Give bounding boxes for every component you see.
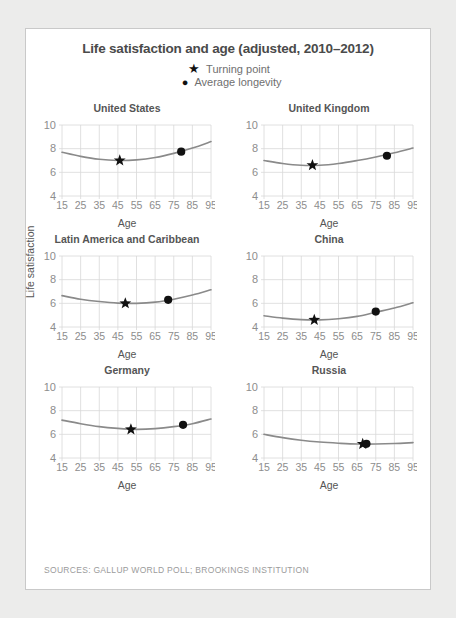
panel-china: China 46810152535455565758595 Age — [228, 229, 430, 360]
panel-row-1: United States 46810152535455565758595 Ag… — [26, 98, 430, 229]
legend-item-average-longevity: ● Average longevity — [174, 76, 281, 88]
panel-title: United States — [26, 102, 228, 116]
svg-text:25: 25 — [276, 199, 288, 211]
x-axis-label: Age — [228, 479, 430, 491]
svg-text:55: 55 — [332, 330, 344, 342]
svg-text:55: 55 — [130, 199, 142, 211]
svg-text:55: 55 — [130, 461, 142, 473]
svg-text:6: 6 — [49, 428, 55, 440]
legend-label-average-longevity: Average longevity — [194, 76, 281, 88]
legend-label-turning-point: Turning point — [206, 63, 270, 75]
svg-text:35: 35 — [295, 330, 307, 342]
legend-item-turning-point: ★ Turning point — [186, 62, 270, 75]
circle-icon: ● — [174, 77, 188, 88]
svg-text:8: 8 — [49, 142, 55, 154]
panel-united-states: United States 46810152535455565758595 Ag… — [26, 98, 228, 229]
svg-text:55: 55 — [332, 199, 344, 211]
svg-text:8: 8 — [49, 404, 55, 416]
svg-text:45: 45 — [112, 199, 124, 211]
panel-united-kingdom: United Kingdom 46810152535455565758595 A… — [228, 98, 430, 229]
plot-area: 46810152535455565758595 — [40, 251, 215, 347]
svg-text:75: 75 — [167, 199, 179, 211]
svg-text:35: 35 — [93, 199, 105, 211]
svg-text:15: 15 — [56, 199, 68, 211]
chart-card: Life satisfaction and age (adjusted, 201… — [25, 28, 431, 590]
svg-text:8: 8 — [251, 273, 257, 285]
svg-text:75: 75 — [167, 330, 179, 342]
svg-text:85: 85 — [186, 461, 198, 473]
svg-text:25: 25 — [74, 461, 86, 473]
svg-text:75: 75 — [369, 330, 381, 342]
svg-text:35: 35 — [295, 199, 307, 211]
svg-text:15: 15 — [258, 199, 270, 211]
svg-text:4: 4 — [49, 190, 55, 202]
svg-text:35: 35 — [93, 461, 105, 473]
svg-text:25: 25 — [276, 330, 288, 342]
svg-text:75: 75 — [167, 461, 179, 473]
svg-text:8: 8 — [49, 273, 55, 285]
star-icon: ★ — [186, 62, 200, 75]
svg-text:45: 45 — [112, 330, 124, 342]
svg-text:15: 15 — [258, 461, 270, 473]
svg-text:65: 65 — [149, 461, 161, 473]
x-axis-label: Age — [228, 348, 430, 360]
svg-text:95: 95 — [205, 199, 215, 211]
svg-text:8: 8 — [251, 404, 257, 416]
svg-text:15: 15 — [56, 461, 68, 473]
svg-text:65: 65 — [149, 199, 161, 211]
svg-text:95: 95 — [407, 199, 417, 211]
panel-row-2: Latin America and Caribbean 468101525354… — [26, 229, 430, 360]
svg-text:10: 10 — [245, 120, 257, 131]
svg-text:55: 55 — [332, 461, 344, 473]
panel-latin-america-and-caribbean: Latin America and Caribbean 468101525354… — [26, 229, 228, 360]
svg-text:4: 4 — [49, 452, 55, 464]
plot-area: 46810152535455565758595 — [242, 251, 417, 347]
plot-area: 46810152535455565758595 — [40, 382, 215, 478]
panel-russia: Russia 46810152535455565758595 Age — [228, 360, 430, 491]
panel-row-3: Germany 46810152535455565758595 Age Russ… — [26, 360, 430, 491]
plot-area: 46810152535455565758595 — [242, 382, 417, 478]
x-axis-label: Age — [26, 217, 228, 229]
svg-text:65: 65 — [351, 330, 363, 342]
svg-text:8: 8 — [251, 142, 257, 154]
svg-text:25: 25 — [74, 199, 86, 211]
panel-grid: Life satisfaction United States 46810152… — [26, 98, 430, 491]
svg-text:6: 6 — [251, 428, 257, 440]
plot-area: 46810152535455565758595 — [40, 120, 215, 216]
svg-text:4: 4 — [251, 321, 257, 333]
x-axis-label: Age — [26, 479, 228, 491]
svg-text:75: 75 — [369, 461, 381, 473]
panel-title: United Kingdom — [228, 102, 430, 116]
x-axis-label: Age — [26, 348, 228, 360]
svg-text:65: 65 — [149, 330, 161, 342]
x-axis-label: Age — [228, 217, 430, 229]
svg-text:45: 45 — [314, 330, 326, 342]
svg-text:95: 95 — [407, 330, 417, 342]
panel-title: China — [228, 233, 430, 247]
svg-text:10: 10 — [43, 120, 55, 131]
svg-text:10: 10 — [245, 382, 257, 393]
svg-text:85: 85 — [186, 199, 198, 211]
y-axis-label: Life satisfaction — [24, 226, 36, 298]
svg-text:75: 75 — [369, 199, 381, 211]
legend: ★ Turning point ● Average longevity — [26, 62, 430, 88]
svg-text:45: 45 — [112, 461, 124, 473]
svg-text:4: 4 — [251, 190, 257, 202]
page-title: Life satisfaction and age (adjusted, 201… — [26, 41, 430, 56]
svg-text:25: 25 — [74, 330, 86, 342]
svg-text:6: 6 — [251, 166, 257, 178]
panel-title: Russia — [228, 364, 430, 378]
svg-text:85: 85 — [388, 199, 400, 211]
svg-text:4: 4 — [251, 452, 257, 464]
svg-text:6: 6 — [49, 297, 55, 309]
svg-text:45: 45 — [314, 199, 326, 211]
svg-text:85: 85 — [186, 330, 198, 342]
svg-text:10: 10 — [43, 382, 55, 393]
svg-text:4: 4 — [49, 321, 55, 333]
svg-text:10: 10 — [43, 251, 55, 262]
svg-text:6: 6 — [251, 297, 257, 309]
svg-text:55: 55 — [130, 330, 142, 342]
panel-title: Germany — [26, 364, 228, 378]
svg-text:35: 35 — [295, 461, 307, 473]
svg-text:15: 15 — [258, 330, 270, 342]
